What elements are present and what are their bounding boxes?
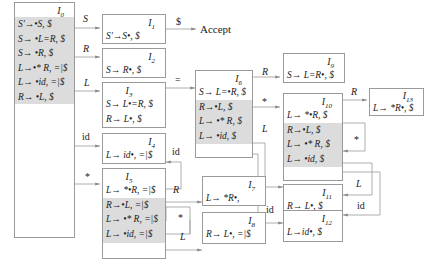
state-I4: I4 L→ id•, =|$ — [102, 133, 166, 164]
item: L→•* R, =|$ — [15, 61, 74, 76]
transition-label: L — [262, 123, 268, 134]
transition-label: * — [354, 134, 359, 145]
state-I2: I2 S→ R•, $ — [102, 48, 166, 78]
state-I7: I7 L→ *R•, — [202, 176, 266, 206]
transition-label: L — [180, 231, 186, 242]
item: L→ •* R, $ — [196, 114, 252, 129]
state-I13: I13 L→ *R•, $ — [369, 88, 424, 116]
transition-label: R — [351, 86, 357, 97]
item: L→ *•R, $ — [284, 108, 342, 123]
closure-items: R→•L, =|$ L→ •* R, =|$ L→ •id, =|$ — [103, 198, 165, 243]
transition-label: $ — [176, 16, 181, 27]
state-I1: I1 S'→S•, $ — [102, 14, 166, 44]
item: S→ •R, $ — [15, 46, 74, 61]
item: S→ L•=R, $ — [103, 97, 165, 112]
item: R→ •L, $ — [15, 90, 74, 105]
item: S→ L=R•, $ — [284, 68, 344, 83]
transition-label: id — [266, 204, 274, 215]
state-I9: I9 S→ L=R•, $ — [283, 53, 345, 83]
item: R→•L, =|$ — [103, 198, 165, 213]
transition-label: R — [83, 43, 89, 54]
transition-label: id — [172, 146, 180, 157]
transition-label: L — [84, 77, 90, 88]
item: L→ •id, =|$ — [103, 227, 165, 243]
item: S→ •L=R, $ — [15, 32, 74, 47]
state-I3: I3 S→ L•=R, $ R→ L•, $ — [102, 82, 166, 128]
transition-label: L — [356, 178, 362, 189]
item: L→ •* R, =|$ — [103, 212, 165, 227]
transition-label: S — [83, 13, 88, 24]
item: S→ L=•R, $ — [196, 85, 252, 100]
item: L→ *R•, — [203, 191, 265, 206]
closure-items: S'→•S, $ S→ •L=R, $ S→ •R, $ L→•* R, =|$… — [15, 17, 74, 104]
transition-label: * — [262, 96, 267, 107]
transition-label: R — [173, 184, 179, 195]
item: R→ L•, =|$ — [203, 227, 265, 242]
state-I6: I6 S→ L=•R, $ R→•L, $ L→ •* R, $ L→ •id,… — [195, 70, 253, 158]
state-I10: I10 L→ *•R, $ R→•L, $ L→ •* R, $ L→ •id,… — [283, 93, 343, 181]
state-title: I0 — [15, 3, 74, 17]
item: R→ L•, $ — [103, 112, 165, 127]
lr1-automaton-diagram: I0 S'→•S, $ S→ •L=R, $ S→ •R, $ L→•* R, … — [0, 0, 430, 261]
transition-label: * — [178, 212, 183, 223]
item: L→ id•, =|$ — [103, 148, 165, 163]
item: L→ •id, =|$ — [15, 75, 74, 90]
item: L→ *R•, $ — [370, 101, 423, 116]
item: L→ •id, $ — [196, 129, 252, 144]
item: S'→S•, $ — [103, 29, 165, 44]
item: R→•L, $ — [284, 123, 342, 138]
state-I0: I0 S'→•S, $ S→ •L=R, $ S→ •R, $ L→•* R, … — [14, 2, 75, 238]
item: L→ •* R, $ — [284, 137, 342, 152]
accept-label: Accept — [200, 23, 231, 35]
item: R→•L, $ — [196, 100, 252, 115]
item: S→ R•, $ — [103, 63, 165, 78]
closure-items: R→•L, $ L→ •* R, $ L→ •id, $ — [196, 100, 252, 144]
transition-label: id — [357, 200, 365, 211]
closure-items: R→•L, $ L→ •* R, $ L→ •id, $ — [284, 123, 342, 167]
transition-label: = — [175, 74, 181, 85]
state-I12: I12 L→id•, $ — [283, 210, 343, 242]
item: S'→•S, $ — [15, 17, 74, 32]
transition-label: R — [262, 66, 268, 77]
item: L→ *•R, =|$ — [103, 183, 165, 198]
state-I8: I8 R→ L•, =|$ — [202, 212, 266, 244]
transition-label: * — [85, 171, 90, 182]
transition-label: id — [82, 131, 90, 142]
item: L→id•, $ — [284, 225, 342, 240]
item: L→ •id, $ — [284, 152, 342, 167]
state-I5: I5 L→ *•R, =|$ R→•L, =|$ L→ •* R, =|$ L→… — [102, 168, 166, 259]
